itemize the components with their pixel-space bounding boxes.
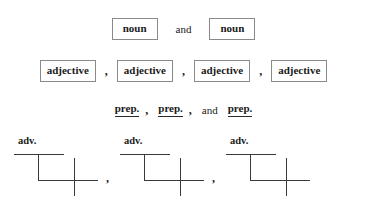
adverb-baseline-1 xyxy=(38,180,98,181)
adverb-label-1: adv. xyxy=(18,136,36,147)
adverb-separator-1-glyph: , xyxy=(106,172,109,184)
adverb-diagram-3: adv. xyxy=(224,136,316,198)
adjective-box-3: adjective xyxy=(194,60,250,82)
adverb-separator-2-glyph: , xyxy=(212,172,215,184)
adverb-branch-rule-2 xyxy=(120,154,170,155)
adverb-crossbar-1 xyxy=(74,158,75,196)
adverb-baseline-3 xyxy=(250,180,310,181)
adverb-diagram-2: adv. xyxy=(118,136,210,198)
prep-token-2: prep. xyxy=(158,103,183,117)
adverb-label-3: adv. xyxy=(230,136,248,147)
adjective-separator-1: , xyxy=(105,65,108,77)
diagram-canvas: noun and noun adjective , adjective , ad… xyxy=(0,0,367,211)
adverb-crossbar-3 xyxy=(286,158,287,196)
adverb-branch-rule-1 xyxy=(14,154,64,155)
adverb-connector-2 xyxy=(144,154,145,180)
preposition-row: prep. , prep. , and prep. xyxy=(0,103,367,117)
adverb-branch-rule-3 xyxy=(226,154,276,155)
adjective-box-2: adjective xyxy=(117,60,173,82)
adverb-connector-1 xyxy=(38,154,39,180)
prep-token-3: prep. xyxy=(228,103,253,117)
adverb-label-2: adv. xyxy=(124,136,142,147)
prep-row-conjunction: and xyxy=(202,105,218,116)
adjective-separator-2: , xyxy=(182,65,185,77)
adverb-crossbar-2 xyxy=(180,158,181,196)
adjective-box-4: adjective xyxy=(271,60,327,82)
adverb-separator-1: , xyxy=(104,136,118,198)
prep-separator-2: , xyxy=(189,104,192,116)
adverb-baseline-2 xyxy=(144,180,204,181)
adjective-separator-3: , xyxy=(259,65,262,77)
prep-separator-1: , xyxy=(145,104,148,116)
noun-row-conjunction: and xyxy=(176,24,192,35)
adjective-box-1: adjective xyxy=(40,60,96,82)
noun-box-1: noun xyxy=(112,18,158,40)
adverb-separator-2: , xyxy=(210,136,224,198)
noun-box-2: noun xyxy=(209,18,255,40)
noun-row: noun and noun xyxy=(0,18,367,40)
adjective-row: adjective , adjective , adjective , adje… xyxy=(0,60,367,82)
adverb-connector-3 xyxy=(250,154,251,180)
adverb-diagram-row: adv. , adv. , adv. xyxy=(0,136,367,198)
adverb-diagram-1: adv. xyxy=(12,136,104,198)
prep-token-1: prep. xyxy=(115,103,140,117)
